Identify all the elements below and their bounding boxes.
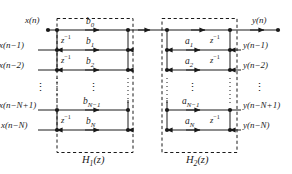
coef-label-bn1: bN−1 — [83, 97, 100, 109]
delay-label-right-2: z−1 — [210, 54, 220, 64]
output-label-yn-N1: y(n−N+1) — [243, 101, 280, 110]
coef-label-b0: b0 — [86, 17, 94, 29]
coef-label-a2: a2 — [185, 57, 193, 69]
coef-label-a1: a1 — [185, 37, 193, 49]
delay-label-left-1: z−1 — [61, 34, 71, 44]
coef-label-an1: aN−1 — [182, 97, 199, 109]
ellipsis-a-coefs: ⋮ — [187, 82, 198, 93]
delay-label-right-3: z−1 — [210, 114, 220, 124]
input-label-xn: x(n) — [25, 16, 40, 25]
output-label-yn-2: y(n−2) — [243, 61, 268, 70]
delay-label-right-1: z−1 — [210, 34, 220, 44]
figure-canvas: x(n) x(n−1) x(n−2) x(n−N+1) x(n−N) y(n) … — [0, 0, 292, 174]
block-caption-h2: H2(z) — [186, 155, 208, 168]
coef-label-b1: b1 — [86, 37, 94, 49]
input-label-xn-N1: x(n−N+1) — [0, 101, 36, 110]
coef-label-b2: b2 — [86, 57, 94, 69]
block-h2-boundary — [162, 19, 237, 153]
input-label-xn-2: x(n−2) — [0, 61, 24, 70]
ellipsis-output-labels: ⋮ — [254, 82, 265, 93]
coef-label-an: aN — [185, 117, 194, 129]
output-label-yn-N: y(n−N) — [243, 121, 270, 130]
block-caption-h1: H1(z) — [82, 155, 104, 168]
input-label-xn-N: x(n−N) — [1, 121, 28, 130]
delay-label-left-2: z−1 — [61, 54, 71, 64]
coef-label-bn: bN — [86, 117, 95, 129]
ellipsis-b-coefs: ⋮ — [88, 82, 99, 93]
output-label-yn: y(n) — [252, 16, 267, 25]
output-label-yn-1: y(n−1) — [243, 41, 268, 50]
delay-label-left-3: z−1 — [61, 114, 71, 124]
ellipsis-input-labels: ⋮ — [35, 82, 46, 93]
input-label-xn-1: x(n−1) — [0, 41, 24, 50]
